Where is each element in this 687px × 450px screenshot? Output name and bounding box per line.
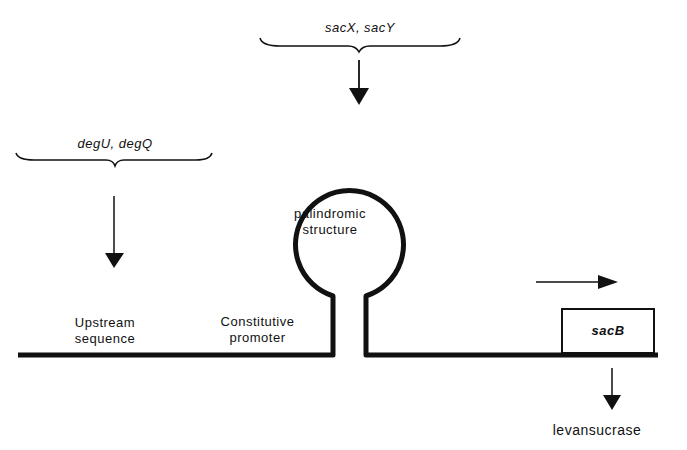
product-arrow-head	[603, 395, 621, 410]
transcription-arrow-head	[598, 275, 618, 289]
top-brace	[260, 38, 460, 52]
sacb-label: sacB	[562, 323, 654, 338]
palindromic-label-line1: palindromic	[275, 206, 385, 221]
top-arrow-head	[349, 88, 369, 105]
upstream-label-line2: sequence	[55, 331, 155, 346]
left-brace	[16, 153, 212, 166]
promoter-label-line1: Constitutive	[200, 314, 315, 329]
promoter-label-line2: promoter	[200, 330, 315, 345]
degu-degq-label: degU, degQ	[55, 136, 175, 151]
left-arrow-head	[105, 253, 124, 268]
upstream-label-line1: Upstream	[55, 315, 155, 330]
sacx-sacy-label: sacX, sacY	[300, 20, 420, 35]
levansucrase-label: levansucrase	[527, 423, 667, 438]
palindromic-label-line2: structure	[275, 222, 385, 237]
